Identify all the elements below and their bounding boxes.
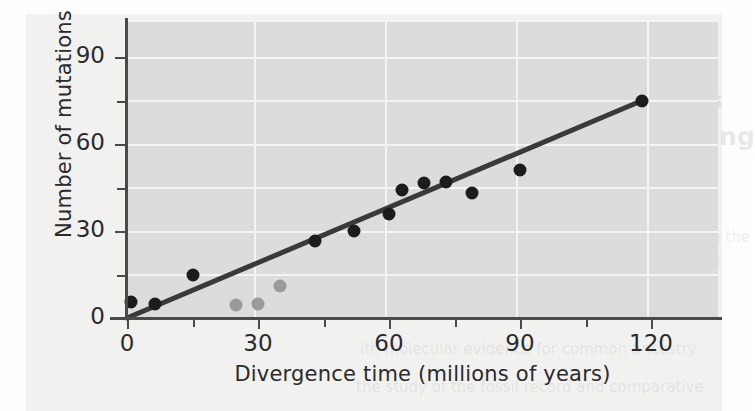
y-axis-tick (117, 188, 126, 190)
x-axis-tick-label: 0 (87, 330, 167, 356)
x-axis-tick (324, 318, 326, 327)
x-axis-title: Divergence time (millions of years) (127, 362, 718, 386)
x-axis-tick (127, 318, 129, 329)
data-point (514, 164, 527, 177)
data-point (465, 187, 478, 200)
y-axis-tick (115, 231, 126, 233)
data-point (252, 297, 265, 310)
data-point (439, 175, 452, 188)
data-point (149, 297, 162, 310)
plot-area (127, 20, 718, 318)
data-point (383, 207, 396, 220)
data-point (636, 94, 649, 107)
y-axis-tick (115, 318, 126, 320)
data-point (417, 177, 430, 190)
scan-margin-right (722, 0, 752, 411)
y-axis-tick-label: 0 (5, 303, 105, 329)
x-axis-tick-label: 60 (349, 330, 429, 356)
x-axis-tick (258, 318, 260, 329)
x-axis-line (110, 317, 722, 320)
x-axis-tick (586, 318, 588, 327)
y-axis-tick (115, 144, 126, 146)
x-axis-tick-label: 120 (611, 330, 691, 356)
scan-margin-top (0, 0, 752, 14)
data-points-layer (127, 20, 718, 318)
x-axis-tick-label: 90 (480, 330, 560, 356)
x-axis-tick (455, 318, 457, 327)
y-axis-tick (115, 57, 126, 59)
x-axis-tick (389, 318, 391, 329)
data-point (186, 268, 199, 281)
x-axis-tick (193, 318, 195, 327)
data-point (230, 298, 243, 311)
x-axis-tick (651, 318, 653, 329)
data-point (273, 280, 286, 293)
data-point (308, 235, 321, 248)
y-axis-tick (117, 101, 126, 103)
data-point (396, 184, 409, 197)
data-point (348, 225, 361, 238)
x-axis-tick (520, 318, 522, 329)
y-axis-tick (117, 275, 126, 277)
x-axis-tick-label: 30 (218, 330, 298, 356)
y-axis-title: Number of mutations (52, 0, 76, 254)
